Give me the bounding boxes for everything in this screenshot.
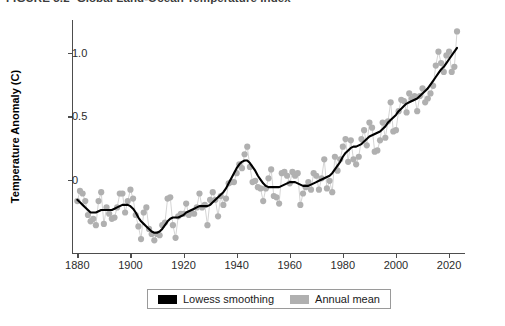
annual-mean-point — [438, 60, 444, 66]
chart-legend: Lowess smoothing Annual mean — [147, 289, 391, 309]
annual-mean-point — [231, 179, 237, 185]
x-tick-label: 2020 — [437, 259, 461, 271]
annual-mean-point — [435, 49, 441, 55]
annual-mean-point — [297, 202, 303, 208]
legend-swatch-lowess — [158, 295, 177, 304]
annual-mean-point — [273, 194, 279, 200]
annual-mean-point — [172, 235, 178, 241]
x-tick-label: 1940 — [224, 259, 248, 271]
x-tick-label: 1980 — [331, 259, 355, 271]
figure-number: FIGURE 5.2 — [6, 0, 70, 4]
x-tick-mark — [449, 254, 450, 258]
annual-mean-point — [90, 216, 96, 222]
annual-mean-point — [332, 154, 338, 160]
annual-mean-point — [284, 173, 290, 179]
annual-mean-point — [326, 178, 332, 184]
annual-mean-point — [414, 108, 420, 114]
annual-mean-point — [143, 204, 149, 210]
annual-mean-point — [345, 159, 351, 165]
annual-mean-point — [393, 127, 399, 133]
annual-mean-point — [348, 137, 354, 143]
x-tick-label: 1920 — [171, 259, 195, 271]
annual-mean-point — [329, 189, 335, 195]
annual-mean-point — [403, 109, 409, 115]
x-tick-label: 1960 — [277, 259, 301, 271]
x-tick-mark — [343, 254, 344, 258]
annual-mean-point — [135, 223, 141, 229]
annual-mean-point — [268, 166, 274, 172]
annual-mean-point — [111, 214, 117, 220]
legend-item-annual: Annual mean — [290, 293, 380, 305]
annual-mean-point — [321, 156, 327, 162]
annual-mean-point — [244, 144, 250, 150]
figure-root: FIGURE 5.2Global Land-Ocean Temperature … — [0, 0, 505, 326]
annual-mean-point — [220, 202, 226, 208]
annual-mean-point — [446, 49, 452, 55]
annual-mean-point — [82, 198, 88, 204]
annual-mean-point — [80, 190, 86, 196]
annual-mean-point — [170, 222, 176, 228]
annual-mean-point — [300, 190, 306, 196]
annual-mean-point — [130, 195, 136, 201]
legend-item-lowess: Lowess smoothing — [158, 293, 274, 305]
annual-mean-point — [361, 127, 367, 133]
annual-mean-point — [252, 178, 258, 184]
x-tick-mark — [184, 254, 185, 258]
annual-mean-point — [313, 173, 319, 179]
annual-mean-point — [276, 201, 282, 207]
x-tick-label: 1900 — [118, 259, 142, 271]
annual-mean-point — [119, 190, 125, 196]
figure-caption: FIGURE 5.2Global Land-Ocean Temperature … — [6, 0, 291, 4]
annual-mean-point — [93, 222, 99, 228]
annual-mean-point — [210, 189, 216, 195]
annual-mean-point — [215, 213, 221, 219]
annual-mean-point — [204, 222, 210, 228]
annual-mean-point — [239, 165, 245, 171]
x-tick-label: 1880 — [65, 259, 89, 271]
annual-mean-point — [196, 190, 202, 196]
annual-mean-point — [167, 194, 173, 200]
legend-label-lowess: Lowess smoothing — [183, 293, 274, 305]
annual-mean-point — [316, 187, 322, 193]
annual-mean-point — [183, 201, 189, 207]
annual-mean-point — [356, 154, 362, 160]
annual-mean-point — [257, 185, 263, 191]
x-tick-mark — [237, 254, 238, 258]
x-tick-mark — [130, 254, 131, 258]
annual-mean-point — [98, 189, 104, 195]
annual-mean-point — [95, 198, 101, 204]
annual-mean-point — [388, 99, 394, 105]
annual-mean-point — [265, 175, 271, 181]
annual-mean-point — [380, 119, 386, 125]
figure-title: Global Land-Ocean Temperature Index — [77, 0, 291, 4]
annual-mean-point — [151, 237, 157, 243]
x-tick-mark — [77, 254, 78, 258]
annual-mean-point — [433, 62, 439, 68]
annual-mean-point — [101, 221, 107, 227]
annual-mean-point — [308, 187, 314, 193]
annual-mean-point — [242, 151, 248, 157]
y-axis-title: Temperature Anomaly (C) — [8, 20, 22, 253]
annual-mean-point — [324, 185, 330, 191]
annual-mean-point — [340, 144, 346, 150]
x-tick-mark — [290, 254, 291, 258]
legend-swatch-annual — [290, 295, 309, 304]
annual-mean-point — [377, 137, 383, 143]
annual-mean-point — [353, 161, 359, 167]
annual-mean-point — [451, 64, 457, 70]
annual-mean-point — [260, 198, 266, 204]
chart-data-canvas — [72, 20, 465, 253]
annual-mean-point — [382, 135, 388, 141]
plot-area: 00.51.018801900192019401960198020002020 — [72, 20, 465, 253]
annual-mean-point — [427, 90, 433, 96]
x-tick-label: 2000 — [384, 259, 408, 271]
annual-mean-point — [342, 136, 348, 142]
annual-mean-point — [125, 198, 131, 204]
annual-mean-point — [127, 187, 133, 193]
annual-mean-point — [191, 211, 197, 217]
annual-mean-point — [223, 195, 229, 201]
annual-mean-point — [364, 142, 370, 148]
annual-mean-point — [374, 147, 380, 153]
annual-mean-point — [454, 28, 460, 34]
annual-mean-point — [138, 236, 144, 242]
